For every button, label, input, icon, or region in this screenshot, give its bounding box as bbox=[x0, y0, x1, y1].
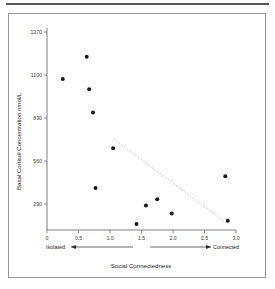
x-tick-label: 0.5 bbox=[75, 235, 82, 241]
x-axis-tick-labels: 00.51.01.52.02.53.0 bbox=[46, 235, 240, 241]
figure-container: 13701100830560290 00.51.01.52.02.53.0 Ba… bbox=[0, 0, 275, 289]
y-tick-label: 830 bbox=[33, 115, 42, 121]
x-tick-label: 3.0 bbox=[232, 235, 239, 241]
right-arrow-icon bbox=[150, 245, 211, 249]
data-point bbox=[226, 219, 230, 223]
y-axis-title: Basal Cortisol Concentration nmol/L bbox=[15, 92, 22, 190]
y-tick-label: 290 bbox=[33, 201, 42, 207]
data-point bbox=[91, 110, 95, 114]
x-axis-ticks bbox=[47, 230, 236, 234]
x-tick-label: 1.0 bbox=[106, 235, 113, 241]
data-point bbox=[223, 174, 227, 178]
left-arrow-icon bbox=[71, 245, 133, 249]
y-tick-label: 1370 bbox=[30, 29, 42, 35]
x-tick-label: 2.0 bbox=[169, 235, 176, 241]
data-point bbox=[144, 204, 148, 208]
data-point bbox=[170, 212, 174, 216]
data-point bbox=[85, 55, 89, 59]
data-points bbox=[61, 55, 230, 226]
x-tick-label: 1.5 bbox=[138, 235, 145, 241]
data-point bbox=[94, 186, 98, 190]
x-tick-label: 0 bbox=[46, 235, 49, 241]
y-tick-label: 1100 bbox=[31, 72, 42, 78]
data-point bbox=[155, 197, 159, 201]
data-point bbox=[61, 77, 65, 81]
x-tick-label: 2.5 bbox=[201, 235, 208, 241]
data-point bbox=[134, 222, 138, 226]
y-axis-tick-labels: 13701100830560290 bbox=[30, 29, 42, 207]
x-axis-title: Social Connectedness bbox=[111, 262, 172, 269]
axis-end-label-isolated: Isolated bbox=[46, 244, 65, 250]
data-point bbox=[87, 87, 91, 91]
y-tick-label: 560 bbox=[33, 158, 42, 164]
trend-line bbox=[113, 139, 228, 224]
data-point bbox=[111, 146, 115, 150]
axis-end-label-connected: Connected bbox=[213, 244, 239, 250]
scatter-plot: 13701100830560290 00.51.01.52.02.53.0 Ba… bbox=[0, 0, 275, 289]
